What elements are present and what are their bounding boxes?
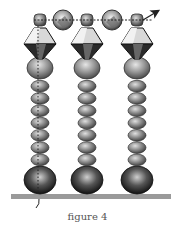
figure-caption: figure 4 [0,211,175,222]
small-bead [128,93,146,105]
table-surface [11,194,171,199]
round-bead [74,57,100,79]
base-bead [71,166,103,194]
small-bead [31,142,49,154]
round-bead [124,57,150,79]
small-bead [31,117,49,129]
small-bead [31,154,49,166]
small-bead [78,142,96,154]
small-bead [31,93,49,105]
base-bead [121,166,153,194]
small-bead [128,129,146,141]
small-bead [128,80,146,92]
small-bead [78,117,96,129]
arrow-right-icon [143,11,158,20]
small-bead [31,80,49,92]
round-bead [27,57,53,79]
beading-diagram [0,0,175,235]
small-bead [78,80,96,92]
small-bead [78,129,96,141]
small-bead [31,105,49,117]
small-bead [128,142,146,154]
small-bead [128,117,146,129]
small-bead [78,105,96,117]
small-bead [128,154,146,166]
thread-tail [36,199,39,208]
small-bead [31,129,49,141]
small-bead [78,154,96,166]
small-bead [78,93,96,105]
small-bead [128,105,146,117]
base-bead [24,166,56,194]
